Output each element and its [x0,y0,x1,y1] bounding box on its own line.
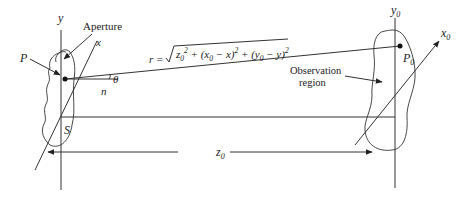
aperture-label: Aperture [83,20,122,32]
formula-radicand: z02 + (x0 − x)2 + (y0 − y)2 [175,46,289,63]
observation-pointer-arrow [345,76,382,82]
n-label: n [101,85,107,97]
observation-region-label-line2: region [299,77,327,88]
point-p0 [398,44,403,49]
diffraction-geometry-diagram: y x Aperture P S n θ y0 x0 P0 Observatio… [0,0,470,199]
theta-label: θ [113,73,119,85]
distance-formula: r = z02 + (x0 − x)2 + (y0 − y)2 [149,39,289,65]
aperture-x-label: x [95,36,101,48]
observation-region-outline [365,30,415,150]
p-label: P [19,51,28,65]
p0-label: P0 [402,51,414,67]
observation-y0-label: y0 [390,3,400,19]
z0-label: z0 [215,145,225,161]
observation-x0-label: x0 [440,26,450,42]
formula-lhs: r = [149,53,163,65]
point-p [63,77,68,82]
s-label: S [64,123,70,137]
observation-x0-axis [355,41,439,145]
aperture-x-axis [35,41,97,170]
observation-region-label-line1: Observation [290,65,342,76]
aperture-pointer-arrow [64,34,92,59]
aperture-y-label: y [57,11,64,25]
